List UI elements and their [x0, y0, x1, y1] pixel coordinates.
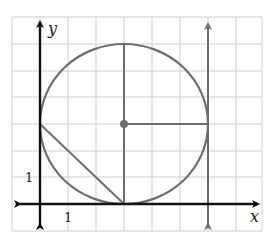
- x-tick-label: 1: [64, 210, 72, 225]
- chord-segment: [40, 124, 124, 204]
- y-axis-label: y: [47, 19, 58, 38]
- graph-figure: y x 1 1: [0, 0, 268, 245]
- coordinate-plane: y x 1 1: [0, 0, 268, 245]
- y-tick-label: 1: [25, 170, 33, 185]
- x-axis-label: x: [250, 207, 259, 226]
- center-point: [120, 120, 128, 128]
